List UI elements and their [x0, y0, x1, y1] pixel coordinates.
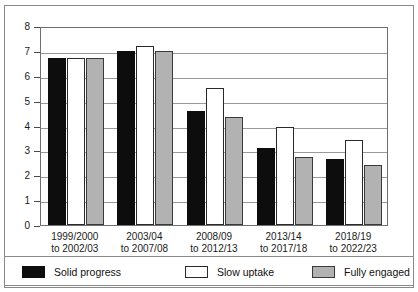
bar	[326, 159, 344, 225]
bar	[295, 157, 313, 225]
gridline	[41, 53, 387, 54]
x-axis-category-line1: 2018/19	[335, 231, 371, 242]
y-axis-tick-label: 6	[4, 72, 30, 82]
plot-area	[40, 27, 388, 226]
bar	[225, 117, 243, 225]
bar	[257, 148, 275, 225]
x-axis-category-line1: 2008/09	[196, 231, 232, 242]
x-axis-category-line2: to 2007/08	[110, 243, 180, 255]
chart-title	[8, 0, 408, 3]
bar	[48, 58, 66, 225]
x-axis-category-line1: 2013/14	[266, 231, 302, 242]
bar	[276, 127, 294, 225]
bar	[206, 88, 224, 225]
legend-label: Slow uptake	[217, 266, 274, 278]
x-axis-category-line2: to 2017/18	[249, 243, 319, 255]
x-axis-category-label: 2003/04to 2007/08	[110, 231, 180, 254]
chart-figure: 012345678 1999/2000to 2002/032003/04to 2…	[0, 0, 418, 292]
legend-swatch	[185, 266, 208, 278]
legend-item: Fully engaged	[312, 264, 410, 280]
bar	[155, 51, 173, 225]
x-axis-category-label: 2008/09to 2012/13	[179, 231, 249, 254]
y-axis-tick-mark	[34, 226, 40, 227]
x-axis-category-line2: to 2012/13	[179, 243, 249, 255]
legend-label: Solid progress	[54, 266, 121, 278]
bar	[345, 140, 363, 225]
y-axis-tick-label: 3	[4, 146, 30, 156]
legend-swatch	[22, 266, 45, 278]
bar	[86, 58, 104, 225]
y-axis-tick-label: 4	[4, 122, 30, 132]
legend-divider-top	[5, 256, 413, 257]
legend-item: Slow uptake	[185, 264, 274, 280]
x-axis-category-label: 1999/2000to 2002/03	[40, 231, 110, 254]
bar	[117, 51, 135, 225]
y-axis-tick-label: 8	[4, 22, 30, 32]
y-axis-tick-label: 1	[4, 196, 30, 206]
x-axis-category-label: 2018/19to 2022/23	[318, 231, 388, 254]
bar	[67, 58, 85, 225]
y-axis-tick-label: 0	[4, 221, 30, 231]
legend-item: Solid progress	[22, 264, 121, 280]
legend-divider-bottom	[5, 285, 413, 286]
x-axis-category-line2: to 2002/03	[40, 243, 110, 255]
legend-label: Fully engaged	[344, 266, 410, 278]
bar	[187, 111, 205, 225]
bar	[364, 165, 382, 225]
y-axis-tick-label: 2	[4, 171, 30, 181]
x-axis-category-line1: 1999/2000	[51, 231, 98, 242]
x-axis-category-line1: 2003/04	[126, 231, 162, 242]
x-axis-category-line2: to 2022/23	[318, 243, 388, 255]
y-axis-tick-label: 7	[4, 47, 30, 57]
bar	[136, 46, 154, 225]
x-axis-category-label: 2013/14to 2017/18	[249, 231, 319, 254]
legend-swatch	[312, 266, 335, 278]
y-axis-tick-label: 5	[4, 97, 30, 107]
